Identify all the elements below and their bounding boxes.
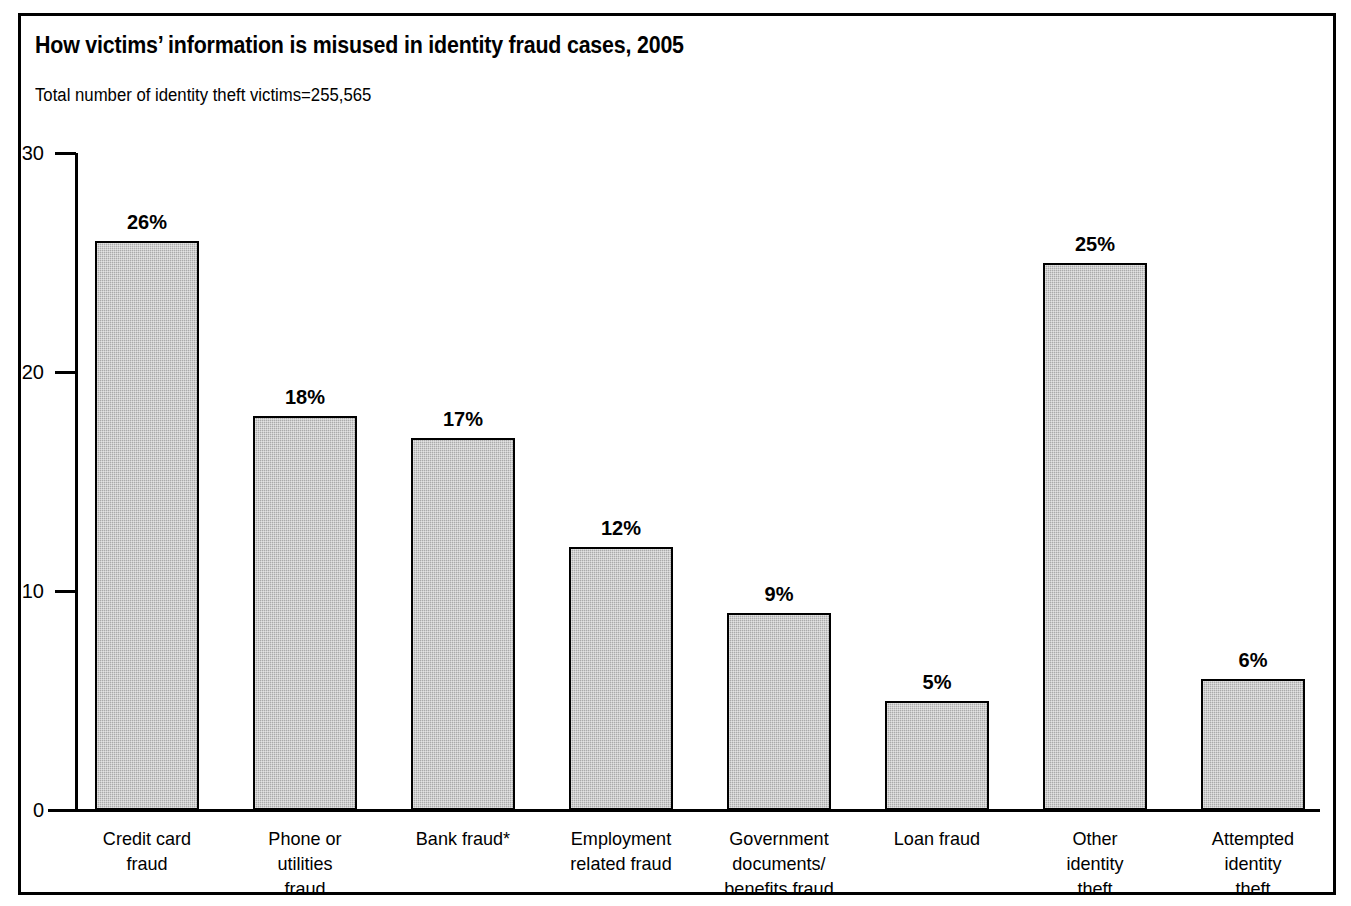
x-axis-category-line: Other — [1015, 826, 1175, 851]
x-axis-category-label: Credit cardfraud — [67, 826, 227, 876]
bar[interactable] — [885, 701, 989, 811]
x-axis-category-line: Bank fraud* — [383, 826, 543, 851]
bar[interactable] — [253, 416, 357, 810]
y-axis-tick — [55, 590, 76, 593]
x-axis-category-line: theft — [1015, 876, 1175, 901]
x-axis-category-line: benefits fraud — [699, 876, 859, 901]
x-axis-category-line: Employment — [541, 826, 701, 851]
x-axis-category-line: utilities — [225, 851, 385, 876]
x-axis-category-line: fraud — [225, 876, 385, 901]
bar-value-label: 6% — [1171, 649, 1335, 672]
x-axis-category-line: identity — [1015, 851, 1175, 876]
y-axis-tick — [55, 809, 76, 812]
x-axis-category-label: Phone orutilitiesfraud — [225, 826, 385, 901]
y-axis-tick-label: 10 — [0, 580, 44, 603]
x-axis-category-label: Otheridentitytheft — [1015, 826, 1175, 901]
x-axis-category-line: Credit card — [67, 826, 227, 851]
x-axis-category-label: Loan fraud — [857, 826, 1017, 851]
chart-page: How victims’ information is misused in i… — [0, 0, 1351, 906]
x-axis-category-line: Government — [699, 826, 859, 851]
x-axis-category-line: theft — [1173, 876, 1333, 901]
bar-value-label: 9% — [697, 583, 861, 606]
y-axis-tick-label: 0 — [0, 799, 44, 822]
x-axis-category-line: Loan fraud — [857, 826, 1017, 851]
y-axis-line — [75, 153, 78, 811]
bar[interactable] — [1201, 679, 1305, 810]
bar-value-label: 5% — [855, 671, 1019, 694]
x-axis-category-label: Attemptedidentitytheft — [1173, 826, 1333, 901]
y-axis-tick — [55, 371, 76, 374]
bar-value-label: 12% — [539, 517, 703, 540]
bar[interactable] — [95, 241, 199, 810]
bar-value-label: 17% — [381, 408, 545, 431]
y-axis-tick-label: 20 — [0, 361, 44, 384]
y-axis-tick-label: 30 — [0, 142, 44, 165]
bar[interactable] — [727, 613, 831, 810]
x-axis-category-line: related fraud — [541, 851, 701, 876]
plot-area: 0102030 26%18%17%12%9%5%25%6% Credit car… — [0, 0, 1351, 906]
bar[interactable] — [411, 438, 515, 810]
bar-value-label: 26% — [65, 211, 229, 234]
x-axis-category-line: fraud — [67, 851, 227, 876]
x-axis-category-line: Attempted — [1173, 826, 1333, 851]
x-axis-category-label: Governmentdocuments/benefits fraud — [699, 826, 859, 901]
x-axis-category-label: Employmentrelated fraud — [541, 826, 701, 876]
bar[interactable] — [1043, 263, 1147, 811]
x-axis-category-line: Phone or — [225, 826, 385, 851]
x-axis-category-label: Bank fraud* — [383, 826, 543, 851]
x-axis-category-line: identity — [1173, 851, 1333, 876]
x-axis-category-line: documents/ — [699, 851, 859, 876]
bar-value-label: 25% — [1013, 233, 1177, 256]
bar-value-label: 18% — [223, 386, 387, 409]
y-axis-tick — [55, 152, 76, 155]
bar[interactable] — [569, 547, 673, 810]
